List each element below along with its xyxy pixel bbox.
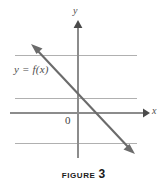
figure-caption-number: 3 bbox=[99, 167, 106, 181]
x-axis-arrowhead-icon bbox=[143, 109, 150, 118]
function-line-group bbox=[31, 44, 135, 154]
axes-group bbox=[10, 20, 150, 158]
function-equation-label: y = f(x) bbox=[14, 64, 49, 75]
x-axis-label: x bbox=[152, 106, 156, 116]
y-axis-label: y bbox=[73, 6, 77, 16]
plot-area: y x 0 y = f(x) bbox=[0, 0, 167, 165]
function-line bbox=[36, 49, 130, 149]
figure-caption: Figure3 bbox=[0, 164, 167, 182]
figure-container: y x 0 y = f(x) Figure3 bbox=[0, 0, 167, 187]
y-axis-arrowhead-icon bbox=[74, 20, 83, 28]
function-line-arrowhead-end-icon bbox=[124, 144, 136, 154]
figure-caption-word: Figure bbox=[62, 171, 96, 180]
function-line-arrowhead-start-icon bbox=[31, 44, 43, 54]
coordinate-plane-graphic bbox=[0, 0, 167, 165]
origin-label: 0 bbox=[65, 115, 71, 126]
